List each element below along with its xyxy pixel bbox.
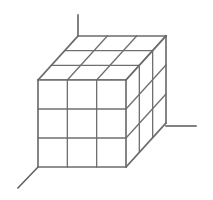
diagram-canvas <box>0 0 213 200</box>
cube-wireframe-svg <box>0 0 213 200</box>
front-face <box>38 80 126 167</box>
front-face-fill <box>38 80 126 167</box>
